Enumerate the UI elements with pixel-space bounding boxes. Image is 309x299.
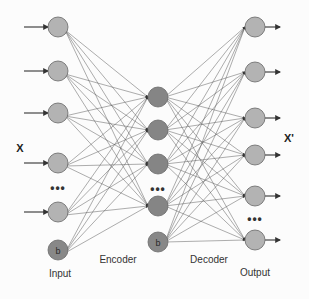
decoder-edge [165, 196, 245, 206]
output-node [245, 17, 265, 37]
input-node [48, 153, 68, 173]
hidden-node [148, 120, 168, 140]
output-node [245, 230, 265, 250]
output-node [245, 145, 265, 165]
output-node [245, 186, 265, 206]
decoder-edge [165, 27, 245, 97]
encoder-edge [65, 74, 148, 130]
encoder-edge [65, 30, 148, 164]
hidden-bias-node-label: b [155, 238, 160, 248]
input-ellipsis: ••• [50, 181, 66, 195]
output-ellipsis: ••• [247, 212, 263, 226]
input-node [48, 61, 68, 81]
encoder-edge [65, 97, 148, 116]
encoder-edge [65, 164, 148, 166]
decoder-edge [165, 27, 245, 206]
output-layer-label: Output [240, 267, 270, 278]
input-node [48, 202, 68, 222]
decoder-edge [165, 240, 245, 242]
encoder-edge [65, 30, 148, 97]
input-vector-label: X [16, 142, 23, 154]
decoder-edge [165, 72, 245, 130]
encoder-edge [65, 130, 148, 215]
decoder-edge [165, 118, 245, 206]
decoder-edge [165, 27, 245, 242]
encoder-edge [65, 164, 148, 253]
output-node [245, 62, 265, 82]
encoder-label: Encoder [99, 254, 136, 265]
input-layer-label: Input [49, 268, 71, 279]
encoder-edge [65, 116, 148, 206]
input-bias-node-label: b [55, 246, 60, 256]
hidden-node [148, 196, 168, 216]
decoder-edge [165, 72, 245, 97]
autoencoder-diagram: bb X X' ••• ••• ••• Input Encoder Decode… [0, 0, 309, 299]
encoder-edge [65, 74, 148, 164]
hidden-node [148, 87, 168, 107]
encoder-edge [65, 130, 148, 253]
hidden-node [148, 154, 168, 174]
network-graph: bb [0, 0, 309, 299]
decoder-label: Decoder [190, 254, 228, 265]
decoder-edge [165, 118, 245, 130]
hidden-ellipsis: ••• [150, 182, 166, 196]
output-vector-label: X' [284, 132, 294, 144]
output-node [245, 108, 265, 128]
input-node [48, 17, 68, 37]
input-node [48, 103, 68, 123]
decoder-edge [165, 27, 245, 164]
